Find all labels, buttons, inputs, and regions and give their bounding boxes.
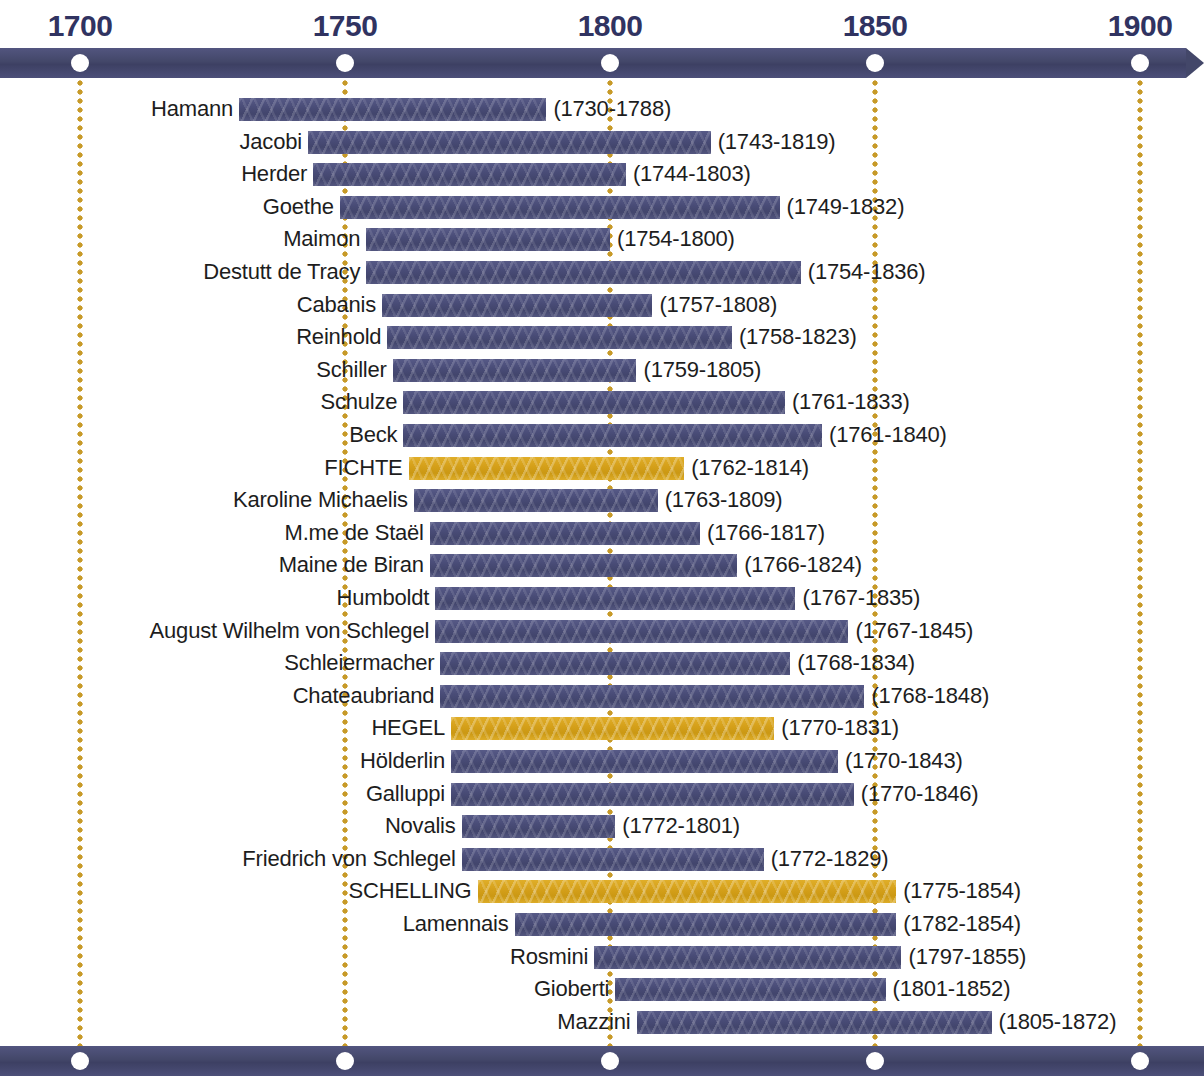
timeline-axis-bottom: [0, 1046, 1204, 1076]
axis-year-label-1700: 1700: [48, 9, 113, 43]
timeline-row[interactable]: Galluppi(1770-1846): [0, 779, 1204, 810]
lifespan-bar[interactable]: [615, 978, 885, 1001]
lifespan-bar[interactable]: [414, 489, 658, 512]
timeline-row[interactable]: Gioberti(1801-1852): [0, 974, 1204, 1005]
lifespan-bar[interactable]: [637, 1011, 992, 1034]
lifespan-bar[interactable]: [313, 163, 626, 186]
person-name-label: Schulze: [320, 387, 397, 418]
lifespan-bar[interactable]: [515, 913, 897, 936]
lifespan-dates-label: (1770-1843): [845, 746, 963, 777]
lifespan-dates-label: (1768-1848): [871, 681, 989, 712]
timeline-row[interactable]: Cabanis(1757-1808): [0, 290, 1204, 321]
timeline-row[interactable]: Herder(1744-1803): [0, 159, 1204, 190]
timeline-row[interactable]: Humboldt(1767-1835): [0, 583, 1204, 614]
timeline-row[interactable]: Karoline Michaelis(1763-1809): [0, 485, 1204, 516]
lifespan-dates-label: (1772-1801): [622, 811, 740, 842]
timeline-row[interactable]: Hölderlin(1770-1843): [0, 746, 1204, 777]
lifespan-bar[interactable]: [308, 131, 711, 154]
lifespan-dates-label: (1744-1803): [633, 159, 751, 190]
lifespan-bar[interactable]: [462, 848, 764, 871]
lifespan-dates-label: (1797-1855): [909, 942, 1027, 973]
timeline-row[interactable]: FICHTE(1762-1814): [0, 453, 1204, 484]
axis-year-label-1750: 1750: [313, 9, 378, 43]
axis-year-label-1900: 1900: [1108, 9, 1173, 43]
axis-year-label-1800: 1800: [578, 9, 643, 43]
timeline-row[interactable]: Lamennais(1782-1854): [0, 909, 1204, 940]
person-name-label: Hamann: [151, 94, 233, 125]
timeline-row[interactable]: Reinhold(1758-1823): [0, 322, 1204, 353]
timeline-row[interactable]: Hamann(1730-1788): [0, 94, 1204, 125]
timeline-row[interactable]: Novalis(1772-1801): [0, 811, 1204, 842]
timeline-row[interactable]: Schiller(1759-1805): [0, 355, 1204, 386]
timeline-row[interactable]: Destutt de Tracy(1754-1836): [0, 257, 1204, 288]
lifespan-dates-label: (1743-1819): [718, 127, 836, 158]
lifespan-bar[interactable]: [403, 424, 822, 447]
lifespan-bar[interactable]: [366, 261, 801, 284]
lifespan-bar[interactable]: [462, 815, 616, 838]
timeline-row[interactable]: Maine de Biran(1766-1824): [0, 550, 1204, 581]
lifespan-bar[interactable]: [435, 587, 795, 610]
lifespan-dates-label: (1758-1823): [739, 322, 857, 353]
lifespan-bar[interactable]: [340, 196, 780, 219]
lifespan-bar[interactable]: [451, 783, 854, 806]
person-name-label: Mazzini: [557, 1007, 630, 1038]
timeline-row[interactable]: Rosmini(1797-1855): [0, 942, 1204, 973]
lifespan-bar-highlighted[interactable]: [451, 717, 774, 740]
person-name-label: Jacobi: [240, 127, 302, 158]
axis-year-label-1850: 1850: [843, 9, 908, 43]
lifespan-bar[interactable]: [440, 652, 790, 675]
timeline-row[interactable]: Mazzini(1805-1872): [0, 1007, 1204, 1038]
person-name-label: Novalis: [385, 811, 456, 842]
lifespan-dates-label: (1754-1836): [808, 257, 926, 288]
lifespan-dates-label: (1766-1824): [744, 550, 862, 581]
lifespan-bar-highlighted[interactable]: [409, 457, 685, 480]
person-name-label: Schiller: [316, 355, 387, 386]
person-name-label: Maine de Biran: [279, 550, 424, 581]
lifespan-dates-label: (1766-1817): [707, 518, 825, 549]
timeline-row[interactable]: SCHELLING(1775-1854): [0, 876, 1204, 907]
timeline-row[interactable]: Schulze(1761-1833): [0, 387, 1204, 418]
timeline-row[interactable]: Goethe(1749-1832): [0, 192, 1204, 223]
lifespan-bar[interactable]: [393, 359, 637, 382]
lifespan-bar[interactable]: [594, 946, 901, 969]
timeline-row[interactable]: Schleiermacher(1768-1834): [0, 648, 1204, 679]
lifespan-bar-highlighted[interactable]: [478, 880, 897, 903]
lifespan-dates-label: (1770-1831): [781, 713, 899, 744]
lifespan-bar[interactable]: [403, 391, 785, 414]
person-name-label: Maimon: [283, 224, 360, 255]
lifespan-dates-label: (1763-1809): [665, 485, 783, 516]
timeline-row[interactable]: M.me de Staël(1766-1817): [0, 518, 1204, 549]
lifespan-bar[interactable]: [239, 98, 546, 121]
timeline-row[interactable]: August Wilhelm von Schlegel(1767-1845): [0, 616, 1204, 647]
axis-tick-dot-1800: [601, 54, 619, 72]
lifespan-dates-label: (1761-1840): [829, 420, 947, 451]
axis-tick-dot-1750: [336, 54, 354, 72]
timeline-row[interactable]: HEGEL(1770-1831): [0, 713, 1204, 744]
lifespan-dates-label: (1759-1805): [644, 355, 762, 386]
axis-arrow-icon: [1186, 48, 1204, 78]
person-name-label: Schleiermacher: [284, 648, 434, 679]
person-name-label: Chateaubriand: [293, 681, 435, 712]
axis-tick-dot-1900: [1131, 1052, 1149, 1070]
lifespan-bar[interactable]: [387, 326, 732, 349]
person-name-label: Lamennais: [403, 909, 509, 940]
lifespan-bar[interactable]: [430, 554, 737, 577]
lifespan-bar[interactable]: [366, 228, 610, 251]
timeline-row[interactable]: Maimon(1754-1800): [0, 224, 1204, 255]
timeline-chart: 17001750180018501900 Hamann(1730-1788)Ja…: [0, 0, 1204, 1084]
timeline-row[interactable]: Jacobi(1743-1819): [0, 127, 1204, 158]
lifespan-bar[interactable]: [430, 522, 700, 545]
timeline-row[interactable]: Friedrich von Schlegel(1772-1829): [0, 844, 1204, 875]
lifespan-bar[interactable]: [382, 294, 652, 317]
timeline-row[interactable]: Chateaubriand(1768-1848): [0, 681, 1204, 712]
lifespan-dates-label: (1757-1808): [659, 290, 777, 321]
lifespan-bar[interactable]: [451, 750, 838, 773]
lifespan-bar[interactable]: [435, 620, 848, 643]
person-name-label: FICHTE: [324, 453, 402, 484]
person-name-label: Beck: [349, 420, 397, 451]
lifespan-bar[interactable]: [440, 685, 864, 708]
person-name-label: Hölderlin: [360, 746, 445, 777]
timeline-row[interactable]: Beck(1761-1840): [0, 420, 1204, 451]
person-name-label: Gioberti: [534, 974, 609, 1005]
lifespan-dates-label: (1749-1832): [787, 192, 905, 223]
